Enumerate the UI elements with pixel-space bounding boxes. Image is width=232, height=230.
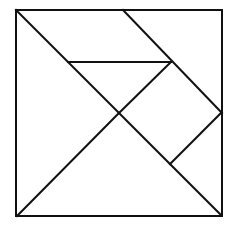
- tangram-diagram: [0, 0, 232, 230]
- tangram-svg: [0, 0, 232, 230]
